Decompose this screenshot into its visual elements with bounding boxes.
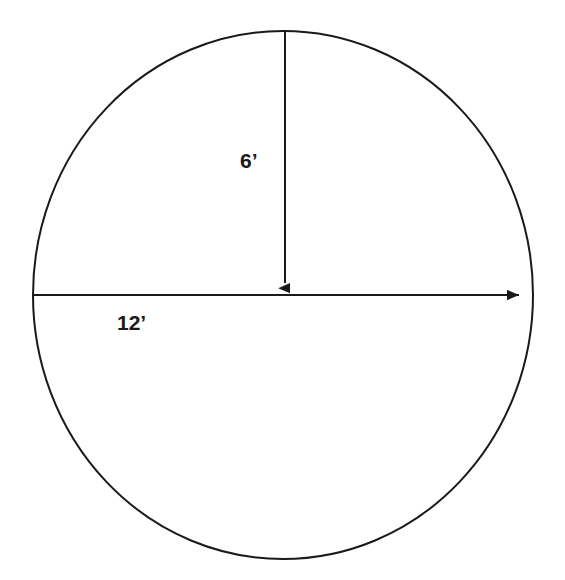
- diameter-dimension-label: 12’: [117, 312, 146, 333]
- radius-dimension-label: 6’: [240, 150, 258, 171]
- circle-diagram-svg: [0, 0, 565, 580]
- geometry-figure-canvas: 6’ 12’: [0, 0, 565, 580]
